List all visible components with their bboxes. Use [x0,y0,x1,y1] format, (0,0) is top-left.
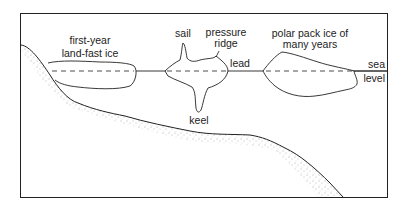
label-first-year: first-year [70,34,111,46]
label-sea: sea [368,58,385,70]
polar-pack-ice-floe [263,52,357,97]
label-many-years: many years [283,38,337,50]
first-year-ice-floe [48,61,136,89]
label-ridge: ridge [214,37,238,49]
label-lead: lead [230,57,250,69]
label-land-fast-ice: land-fast ice [62,47,119,59]
pressure-ridge-floe [165,43,228,112]
label-keel: keel [189,114,208,126]
label-level: level [363,72,385,84]
label-sail: sail [175,27,191,39]
pressure-ridge-pointer [216,51,219,57]
sea-ice-diagram: first-year land-fast ice sail pressure r… [0,0,409,210]
